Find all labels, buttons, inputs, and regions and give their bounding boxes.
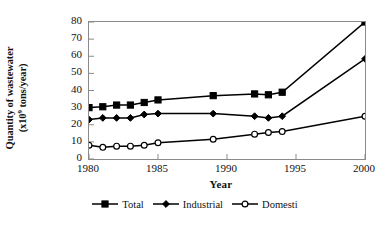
y-tick-label: 50: [58, 66, 82, 77]
data-point-marker: [210, 136, 216, 142]
data-point-marker: [99, 115, 106, 122]
series-industrial: [89, 55, 365, 123]
x-axis-tick-labels: 19801985199019952000: [0, 162, 390, 178]
y-tick-label: 10: [58, 135, 82, 146]
series-line: [89, 22, 365, 108]
data-point-marker: [128, 143, 134, 149]
data-point-marker: [362, 22, 365, 25]
legend-item-total[interactable]: Total: [92, 198, 143, 210]
data-point-marker: [155, 97, 161, 103]
legend-marker-filled-diamond: [153, 198, 179, 210]
x-tick-label: 1985: [137, 162, 177, 174]
data-point-marker: [279, 89, 285, 95]
x-axis-title-text: Year: [158, 178, 233, 190]
y-axis-title-units-suffix: tons/year): [17, 64, 28, 110]
data-point-marker: [279, 129, 285, 135]
y-tick-label: 40: [58, 84, 82, 95]
data-point-marker: [266, 130, 272, 136]
y-tick-label: 20: [58, 118, 82, 129]
legend-item-industrial[interactable]: Industrial: [153, 198, 223, 210]
data-point-marker: [252, 131, 258, 137]
legend-item-domesti[interactable]: Domesti: [232, 198, 298, 210]
y-tick-label: 60: [58, 49, 82, 60]
data-point-marker: [89, 105, 92, 111]
data-point-marker: [252, 91, 258, 97]
data-point-marker: [362, 113, 365, 119]
y-axis-title-exponent: 9: [15, 110, 23, 113]
data-point-marker: [155, 110, 162, 117]
plot-area: [88, 21, 366, 160]
y-axis-title: Quantity of wastewater (x109 tons/year): [4, 18, 40, 178]
legend-label: Industrial: [182, 199, 223, 210]
chart-legend: TotalIndustrialDomesti: [0, 198, 390, 210]
plot-lines: [89, 22, 365, 159]
data-point-marker: [265, 115, 272, 122]
legend-label: Domesti: [261, 199, 298, 210]
series-line: [89, 59, 365, 120]
data-point-marker: [242, 201, 248, 207]
data-point-marker: [89, 142, 92, 148]
data-point-marker: [162, 201, 169, 208]
x-tick-label: 1980: [68, 162, 108, 174]
data-point-marker: [210, 93, 216, 99]
legend-marker-filled-square: [92, 198, 118, 210]
data-point-marker: [127, 102, 133, 108]
wastewater-line-chart: Quantity of wastewater (x109 tons/year) …: [0, 0, 390, 226]
data-point-marker: [141, 111, 148, 118]
data-point-marker: [265, 92, 271, 98]
data-point-marker: [127, 115, 134, 122]
series-total: [89, 22, 365, 111]
data-point-marker: [113, 115, 120, 122]
x-tick-label: 2000: [344, 162, 384, 174]
data-point-marker: [89, 116, 92, 123]
data-point-marker: [155, 140, 161, 146]
y-axis-tick-labels: 01020304050607080: [56, 0, 82, 226]
x-tick-label: 1990: [206, 162, 246, 174]
x-axis-title: Year: [0, 178, 390, 190]
data-point-marker: [210, 110, 217, 117]
y-tick-label: 30: [58, 101, 82, 112]
y-axis-title-line2: (x109 tons/year): [17, 18, 30, 178]
data-point-marker: [141, 142, 147, 148]
data-point-marker: [102, 201, 108, 207]
legend-label: Total: [121, 199, 143, 210]
y-axis-title-units-prefix: (x10: [17, 114, 28, 133]
data-point-marker: [114, 143, 120, 149]
data-point-marker: [114, 102, 120, 108]
y-tick-label: 80: [58, 15, 82, 26]
data-point-marker: [141, 99, 147, 105]
data-point-marker: [100, 144, 106, 150]
x-tick-label: 1995: [275, 162, 315, 174]
legend-marker-open-circle: [232, 198, 258, 210]
data-point-marker: [251, 113, 258, 120]
data-point-marker: [100, 104, 106, 110]
y-tick-label: 70: [58, 32, 82, 43]
y-axis-title-line1: Quantity of wastewater: [4, 47, 15, 150]
